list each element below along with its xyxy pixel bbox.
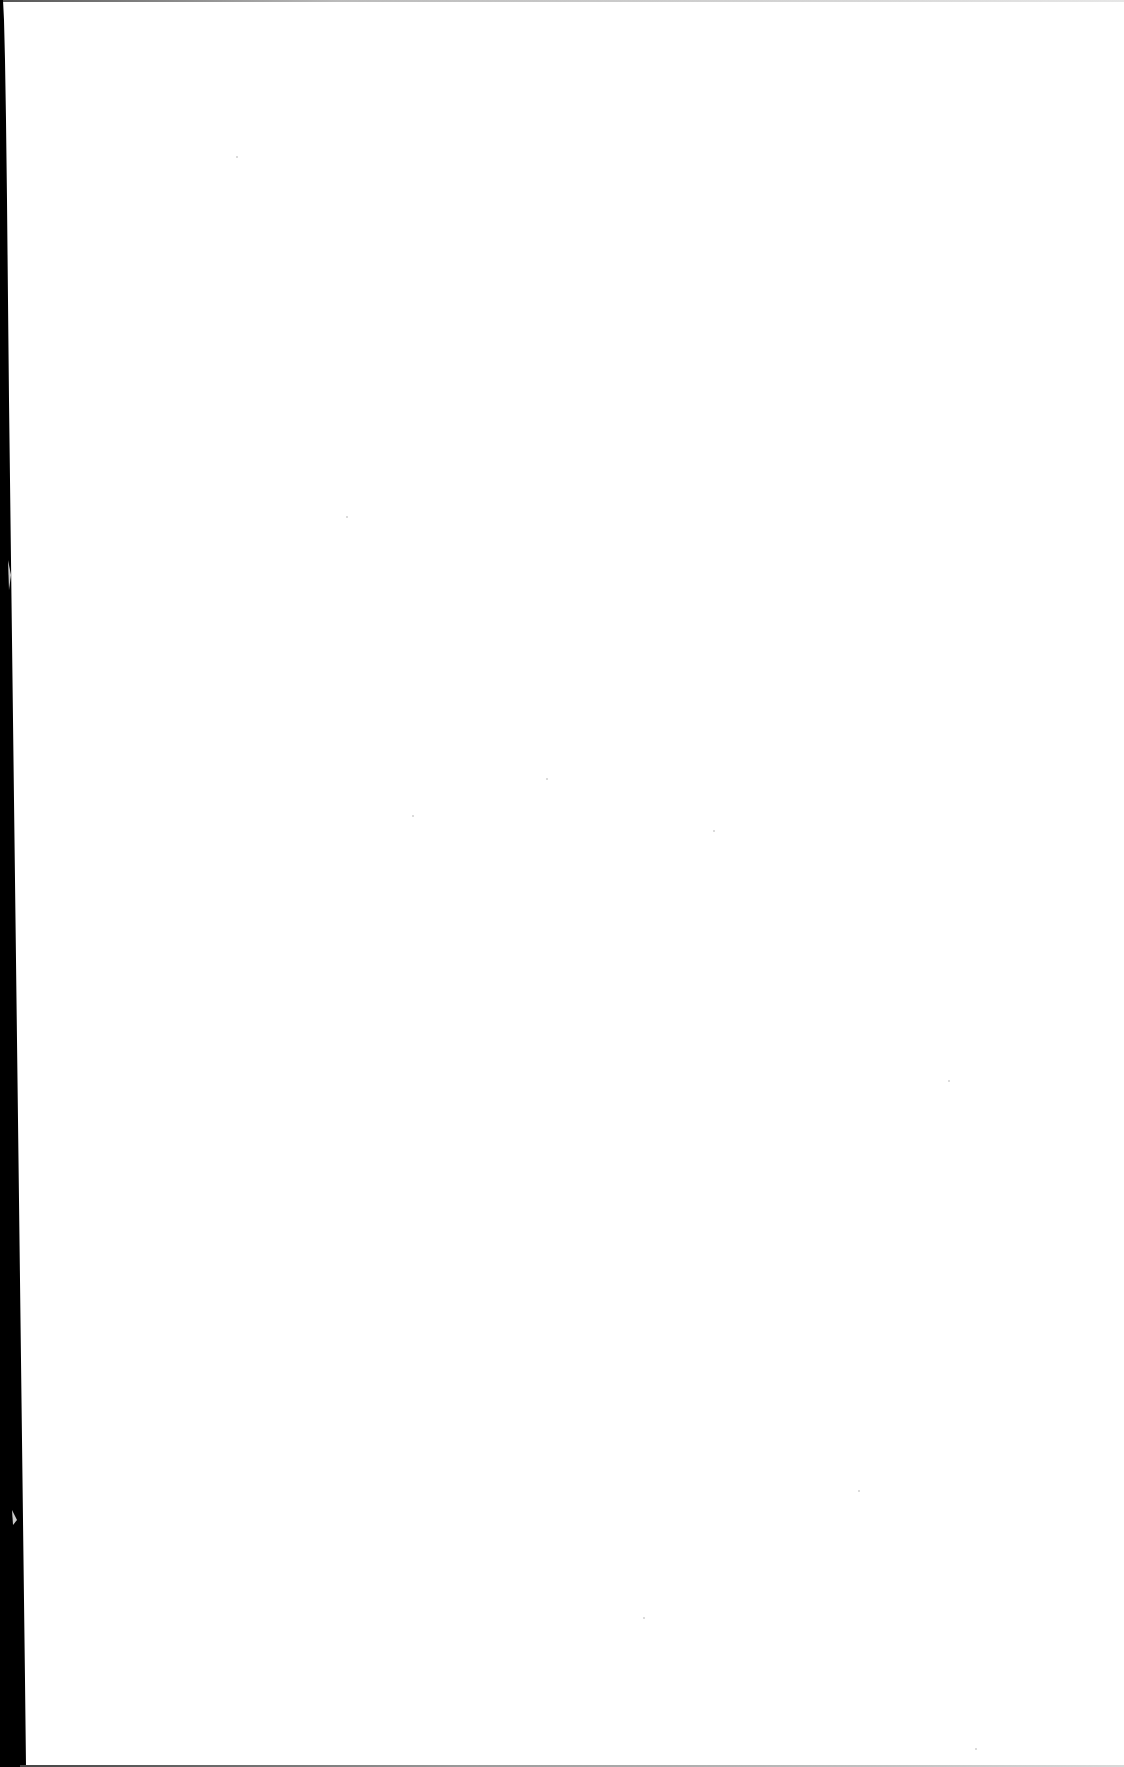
scan-edge-shadow — [0, 0, 30, 1767]
scan-top-border — [0, 0, 1124, 2]
page-content-area — [60, 60, 1064, 1707]
scanned-blank-page — [0, 0, 1124, 1767]
